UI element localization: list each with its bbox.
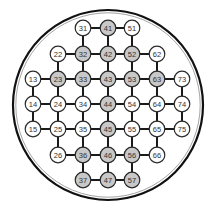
hole-label: 23 — [54, 75, 62, 84]
hole-42[interactable]: 42 — [100, 46, 116, 62]
hole-label: 57 — [128, 176, 136, 185]
solitaire-board: 3141512232425262132333435363731424344454… — [0, 0, 215, 207]
hole-label: 25 — [54, 125, 62, 134]
hole-31[interactable]: 31 — [75, 20, 91, 36]
hole-46[interactable]: 46 — [100, 147, 116, 163]
hole-64[interactable]: 64 — [149, 96, 165, 112]
hole-55[interactable]: 55 — [124, 121, 140, 137]
hole-66[interactable]: 66 — [149, 147, 165, 163]
hole-63[interactable]: 63 — [149, 71, 165, 87]
hole-label: 33 — [79, 75, 87, 84]
hole-label: 47 — [104, 176, 112, 185]
hole-26[interactable]: 26 — [50, 147, 66, 163]
hole-22[interactable]: 22 — [50, 46, 66, 62]
hole-74[interactable]: 74 — [174, 96, 190, 112]
hole-label: 66 — [153, 151, 161, 160]
hole-label: 54 — [128, 100, 136, 109]
hole-label: 55 — [128, 125, 136, 134]
hole-label: 35 — [79, 125, 87, 134]
hole-label: 73 — [178, 75, 186, 84]
hole-label: 15 — [29, 125, 37, 134]
hole-label: 43 — [104, 75, 112, 84]
hole-45[interactable]: 45 — [100, 121, 116, 137]
hole-label: 62 — [153, 50, 161, 59]
hole-75[interactable]: 75 — [174, 121, 190, 137]
hole-label: 74 — [178, 100, 186, 109]
hole-label: 53 — [128, 75, 136, 84]
hole-label: 45 — [104, 125, 112, 134]
hole-label: 65 — [153, 125, 161, 134]
hole-label: 63 — [153, 75, 161, 84]
hole-33[interactable]: 33 — [75, 71, 91, 87]
hole-label: 22 — [54, 50, 62, 59]
hole-37[interactable]: 37 — [75, 172, 91, 188]
hole-23[interactable]: 23 — [50, 71, 66, 87]
hole-52[interactable]: 52 — [124, 46, 140, 62]
hole-15[interactable]: 15 — [25, 121, 41, 137]
hole-53[interactable]: 53 — [124, 71, 140, 87]
hole-47[interactable]: 47 — [100, 172, 116, 188]
hole-label: 32 — [79, 50, 87, 59]
hole-label: 37 — [79, 176, 87, 185]
hole-label: 44 — [104, 100, 112, 109]
hole-label: 24 — [54, 100, 62, 109]
hole-62[interactable]: 62 — [149, 46, 165, 62]
hole-44[interactable]: 44 — [100, 96, 116, 112]
hole-51[interactable]: 51 — [124, 20, 140, 36]
hole-label: 31 — [79, 24, 87, 33]
hole-label: 52 — [128, 50, 136, 59]
hole-34[interactable]: 34 — [75, 96, 91, 112]
hole-label: 13 — [29, 75, 37, 84]
hole-13[interactable]: 13 — [25, 71, 41, 87]
hole-label: 34 — [79, 100, 87, 109]
hole-54[interactable]: 54 — [124, 96, 140, 112]
hole-56[interactable]: 56 — [124, 147, 140, 163]
hole-73[interactable]: 73 — [174, 71, 190, 87]
hole-label: 14 — [29, 100, 37, 109]
hole-label: 75 — [178, 125, 186, 134]
hole-label: 46 — [104, 151, 112, 160]
hole-label: 51 — [128, 24, 136, 33]
hole-label: 41 — [104, 24, 112, 33]
hole-25[interactable]: 25 — [50, 121, 66, 137]
hole-32[interactable]: 32 — [75, 46, 91, 62]
hole-label: 56 — [128, 151, 136, 160]
hole-43[interactable]: 43 — [100, 71, 116, 87]
hole-label: 64 — [153, 100, 161, 109]
hole-35[interactable]: 35 — [75, 121, 91, 137]
hole-65[interactable]: 65 — [149, 121, 165, 137]
hole-36[interactable]: 36 — [75, 147, 91, 163]
hole-41[interactable]: 41 — [100, 20, 116, 36]
hole-label: 26 — [54, 151, 62, 160]
hole-24[interactable]: 24 — [50, 96, 66, 112]
hole-57[interactable]: 57 — [124, 172, 140, 188]
hole-label: 42 — [104, 50, 112, 59]
hole-label: 36 — [79, 151, 87, 160]
hole-14[interactable]: 14 — [25, 96, 41, 112]
